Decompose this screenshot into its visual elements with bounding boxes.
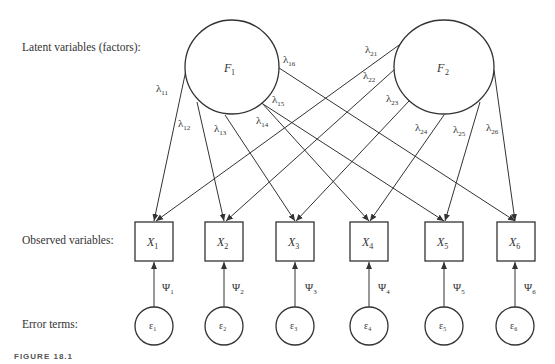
svg-text:Ψ4: Ψ4 (378, 281, 390, 296)
svg-text:λ25: λ25 (453, 123, 466, 138)
svg-text:2: 2 (445, 68, 449, 77)
svg-text:Ψ5: Ψ5 (453, 281, 465, 296)
svg-text:λ26: λ26 (486, 121, 499, 136)
svg-text:Ψ1: Ψ1 (162, 281, 174, 296)
svg-text:λ16: λ16 (283, 53, 296, 68)
psi-labels: Ψ1 Ψ2 Ψ3 Ψ4 Ψ5 Ψ6 (162, 281, 536, 296)
svg-text:λ24: λ24 (415, 121, 428, 136)
svg-text:λ13: λ13 (214, 122, 227, 137)
svg-text:λ15: λ15 (272, 93, 285, 108)
svg-text:Ψ6: Ψ6 (524, 281, 536, 296)
factor-f2: F 2 (394, 20, 494, 114)
svg-text:F: F (436, 61, 445, 75)
factor-f1: F 1 (185, 20, 279, 114)
svg-text:1: 1 (231, 68, 235, 77)
svg-text:λ23: λ23 (386, 92, 399, 107)
svg-text:Ψ2: Ψ2 (232, 281, 244, 296)
svg-text:Ψ3: Ψ3 (305, 281, 317, 296)
svg-text:λ21: λ21 (365, 43, 378, 58)
svg-text:λ11: λ11 (156, 82, 169, 97)
svg-text:λ22: λ22 (363, 69, 376, 84)
factor-model-diagram: F 1 F 2 λ11 λ12 λ13 λ14 λ15 λ16 λ21 λ22 … (0, 0, 555, 364)
svg-text:λ14: λ14 (256, 114, 269, 129)
svg-text:λ12: λ12 (178, 117, 191, 132)
